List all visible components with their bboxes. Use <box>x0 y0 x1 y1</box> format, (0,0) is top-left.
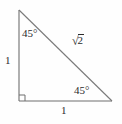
hypotenuse-label: √2 <box>71 34 84 47</box>
geometry-figure: 45° 45° 1 1 √2 <box>0 0 122 124</box>
angle-base-right-label: 45° <box>74 85 89 96</box>
angle-apex-label: 45° <box>22 28 37 39</box>
hypotenuse-line <box>19 10 112 101</box>
right-angle-marker-icon <box>19 95 25 101</box>
radical-expression: √2 <box>71 34 84 47</box>
leg-horizontal-label: 1 <box>61 105 67 116</box>
radicand-value: 2 <box>78 34 85 46</box>
leg-vertical-label: 1 <box>5 55 11 66</box>
